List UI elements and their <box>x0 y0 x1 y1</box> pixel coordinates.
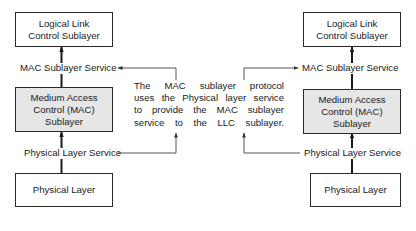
right-mac-service-label: MAC Sublayer Service <box>302 62 399 74</box>
description-line3: to provide the MAC sublayer <box>134 104 284 116</box>
left-mac-service-label: MAC Sublayer Service <box>20 62 117 74</box>
left-physical-box: Physical Layer <box>15 173 113 207</box>
right-physical-box: Physical Layer <box>310 173 401 207</box>
left-mac-line1: Medium Access <box>30 92 97 104</box>
right-upper-connector <box>244 68 298 80</box>
right-llc-line1: Logical Link <box>316 18 387 30</box>
right-physical-service-label: Physical Layer Service <box>304 147 401 159</box>
right-lower-connector <box>244 133 300 153</box>
description-text: The MAC sublayer protocol uses the Physi… <box>134 80 284 129</box>
left-llc-line2: Control Sublayer <box>28 30 99 42</box>
left-lower-connector <box>118 133 176 153</box>
left-physical-line1: Physical Layer <box>33 184 95 196</box>
left-mac-line2: Control (MAC) <box>30 104 97 116</box>
right-llc-line2: Control Sublayer <box>316 30 387 42</box>
right-llc-box: Logical Link Control Sublayer <box>303 12 401 47</box>
right-mac-box: Medium Access Control (MAC) Sublayer <box>303 89 401 134</box>
left-llc-box: Logical Link Control Sublayer <box>15 12 113 47</box>
left-mac-box: Medium Access Control (MAC) Sublayer <box>15 87 113 132</box>
right-mac-line1: Medium Access <box>318 94 385 106</box>
description-line1: The MAC sublayer protocol <box>134 80 284 92</box>
left-mac-line3: Sublayer <box>30 116 97 128</box>
right-mac-line3: Sublayer <box>318 118 385 130</box>
right-mac-line2: Control (MAC) <box>318 106 385 118</box>
left-upper-connector <box>118 68 176 80</box>
description-line4: service to the LLC sublayer. <box>134 117 284 129</box>
description-line2: uses the Physical layer service <box>134 92 284 104</box>
left-llc-line1: Logical Link <box>28 18 99 30</box>
right-physical-line1: Physical Layer <box>324 184 386 196</box>
left-physical-service-label: Physical Layer Service <box>24 147 121 159</box>
